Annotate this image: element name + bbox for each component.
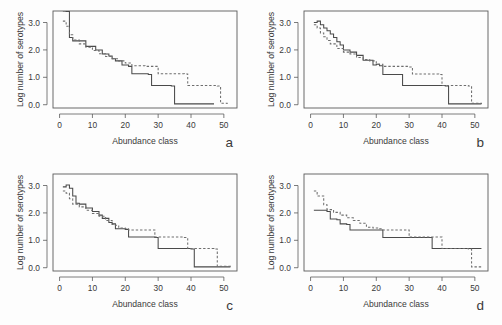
y-axis-tick-label: 2.0 (28, 45, 40, 55)
x-axis-tick-label: 0 (308, 283, 313, 293)
y-axis-title: Log number of serotypes (266, 175, 276, 270)
x-axis-tick-label: 0 (308, 120, 313, 130)
curve-dashed-expected (314, 25, 482, 104)
y-axis-tick-label: 1.0 (28, 235, 40, 245)
curves-group (63, 185, 231, 267)
y-axis-title: Log number of serotypes (266, 12, 276, 107)
y-axis-tick-label: 1.0 (279, 72, 291, 82)
curve-solid-observed (314, 210, 482, 248)
curves-group (63, 11, 227, 104)
y-axis-title: Log number of serotypes (15, 12, 25, 107)
panel-d-plot: 0.01.02.03.001020304050Abundance classLo… (251, 163, 502, 325)
x-axis-tick-label: 40 (186, 283, 196, 293)
x-axis-tick-label: 10 (88, 283, 98, 293)
x-axis-tick-label: 0 (57, 283, 62, 293)
y-axis-tick-label: 3.0 (279, 181, 291, 191)
panel-a-plot: 0.01.02.03.001020304050Abundance classLo… (0, 0, 251, 162)
panel-d: 0.01.02.03.001020304050Abundance classLo… (251, 163, 502, 325)
x-axis-tick-label: 40 (437, 283, 447, 293)
x-axis-tick-label: 50 (219, 120, 229, 130)
x-axis-title: Abundance class (112, 136, 177, 146)
x-axis-tick-label: 20 (121, 283, 131, 293)
plot-frame (53, 174, 237, 271)
y-axis-tick-label: 2.0 (279, 208, 291, 218)
y-axis-tick-label: 1.0 (28, 72, 40, 82)
x-axis-tick-label: 30 (404, 120, 414, 130)
x-axis-tick-label: 50 (219, 283, 229, 293)
x-axis-tick-label: 0 (57, 120, 62, 130)
y-axis-title: Log number of serotypes (15, 175, 25, 270)
curve-solid-observed (63, 11, 214, 104)
y-axis-tick-label: 0.0 (28, 100, 40, 110)
panel-c: 0.01.02.03.001020304050Abundance classLo… (0, 163, 251, 325)
panel-letter: b (476, 135, 484, 150)
curve-solid-observed (314, 21, 482, 104)
panel-a: 0.01.02.03.001020304050Abundance classLo… (0, 0, 251, 162)
y-axis-tick-label: 3.0 (279, 18, 291, 28)
x-axis-tick-label: 40 (437, 120, 447, 130)
y-axis-tick-label: 1.0 (279, 235, 291, 245)
plot-frame (304, 174, 488, 271)
x-axis-tick-label: 10 (339, 283, 349, 293)
curve-solid-observed (63, 185, 231, 267)
panel-c-plot: 0.01.02.03.001020304050Abundance classLo… (0, 163, 251, 325)
x-axis-tick-label: 40 (186, 120, 196, 130)
panel-b: 0.01.02.03.001020304050Abundance classLo… (251, 0, 502, 162)
y-axis-tick-label: 0.0 (279, 263, 291, 273)
x-axis-title: Abundance class (112, 299, 177, 309)
curve-dashed-expected (314, 191, 482, 267)
figure-container: 0.01.02.03.001020304050Abundance classLo… (0, 0, 502, 325)
curves-group (314, 191, 482, 267)
y-axis-tick-label: 3.0 (28, 18, 40, 28)
x-axis-tick-label: 50 (470, 120, 480, 130)
y-axis-tick-label: 0.0 (28, 263, 40, 273)
x-axis-tick-label: 30 (153, 120, 163, 130)
panel-letter: d (476, 298, 484, 313)
y-axis-tick-label: 2.0 (279, 45, 291, 55)
curve-dashed-expected (63, 21, 227, 104)
x-axis-tick-label: 20 (121, 120, 131, 130)
x-axis-tick-label: 30 (153, 283, 163, 293)
panel-letter: a (225, 135, 233, 150)
y-axis-tick-label: 0.0 (279, 100, 291, 110)
y-axis-tick-label: 2.0 (28, 208, 40, 218)
x-axis-tick-label: 10 (339, 120, 349, 130)
plot-frame (53, 11, 237, 108)
panel-letter: c (226, 298, 233, 313)
x-axis-tick-label: 30 (404, 283, 414, 293)
panel-b-plot: 0.01.02.03.001020304050Abundance classLo… (251, 0, 502, 162)
curve-dashed-expected (63, 191, 231, 267)
x-axis-tick-label: 50 (470, 283, 480, 293)
x-axis-tick-label: 10 (88, 120, 98, 130)
x-axis-tick-label: 20 (372, 283, 382, 293)
x-axis-title: Abundance class (363, 136, 428, 146)
x-axis-title: Abundance class (363, 299, 428, 309)
plot-frame (304, 11, 488, 108)
x-axis-tick-label: 20 (372, 120, 382, 130)
y-axis-tick-label: 3.0 (28, 181, 40, 191)
curves-group (314, 21, 482, 104)
